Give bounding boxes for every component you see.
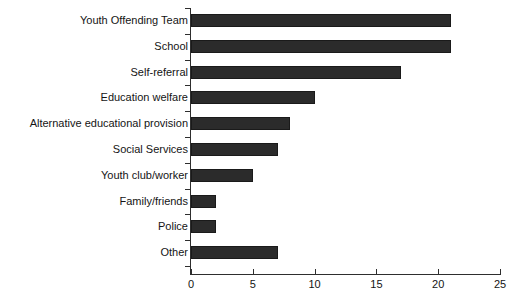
- category-label: Police: [158, 220, 188, 233]
- category-label: School: [154, 40, 188, 53]
- bar: [191, 143, 278, 156]
- bar: [191, 14, 451, 27]
- category-label: Family/friends: [120, 195, 188, 208]
- category-label: Social Services: [113, 143, 188, 156]
- x-axis-line: [190, 274, 500, 275]
- x-axis-tick: [315, 269, 316, 275]
- x-axis-tick-label: 15: [370, 278, 382, 291]
- bar: [191, 91, 315, 104]
- bar: [191, 40, 451, 53]
- category-label: Self-referral: [131, 66, 188, 79]
- y-axis-line: [190, 8, 191, 275]
- category-label: Youth Offending Team: [80, 14, 188, 27]
- bar: [191, 169, 253, 182]
- bar: [191, 66, 401, 79]
- x-axis-tick: [376, 269, 377, 275]
- category-label: Youth club/worker: [101, 169, 188, 182]
- x-axis-tick: [500, 269, 501, 275]
- bar: [191, 246, 278, 259]
- bar-chart: Youth Offending Team School Self-referra…: [0, 0, 525, 305]
- x-axis-tick-label: 5: [250, 278, 256, 291]
- bar: [191, 195, 216, 208]
- x-axis-tick: [438, 269, 439, 275]
- category-label: Other: [160, 246, 188, 259]
- x-axis-tick: [253, 269, 254, 275]
- category-label: Alternative educational provision: [30, 117, 188, 130]
- x-axis-tick-label: 10: [308, 278, 320, 291]
- x-axis-tick-label: 0: [188, 278, 194, 291]
- bar: [191, 117, 290, 130]
- bar: [191, 220, 216, 233]
- x-axis-tick-label: 20: [432, 278, 444, 291]
- x-axis-tick-label: 25: [494, 278, 506, 291]
- category-label: Education welfare: [101, 91, 188, 104]
- x-axis-tick: [191, 269, 192, 275]
